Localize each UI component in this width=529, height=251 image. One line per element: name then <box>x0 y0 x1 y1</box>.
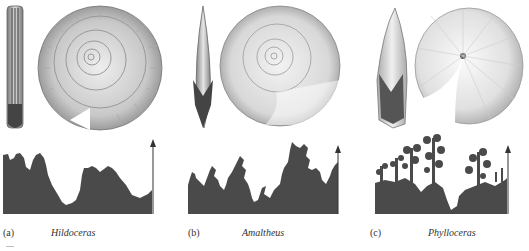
hildoceras-suture-profile <box>0 0 180 225</box>
panel-b: (b) Amaltheus <box>180 0 360 251</box>
panel-letter-b: (b) <box>188 227 200 238</box>
panel-letter-a: (a) <box>3 227 14 238</box>
suture-fill <box>375 134 507 214</box>
suture-fill <box>188 142 338 214</box>
panel-letter-c: (c) <box>370 227 381 238</box>
arrow-head-icon <box>335 145 341 153</box>
figure-corner-mark <box>6 246 14 247</box>
suture-fill <box>3 153 152 214</box>
genus-label-a: Hildoceras <box>51 227 95 238</box>
arrow-head-icon <box>505 145 511 153</box>
panel-a: (a) Hildoceras <box>0 0 180 251</box>
panel-c: (c) Phylloceras <box>355 0 529 251</box>
phylloceras-suture-profile <box>355 0 529 225</box>
amaltheus-suture-profile <box>180 0 360 225</box>
genus-label-b: Amaltheus <box>242 227 284 238</box>
arrow-head-icon <box>150 139 156 147</box>
genus-label-c: Phylloceras <box>428 227 476 238</box>
